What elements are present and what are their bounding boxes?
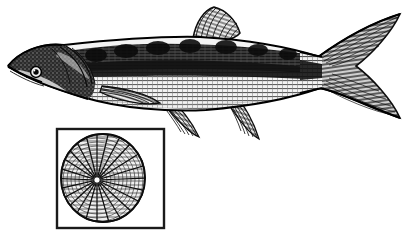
- caudal-peduncle: [300, 52, 322, 93]
- fish-illustration-svg: [0, 0, 406, 236]
- eye: [31, 67, 42, 78]
- illustration-plate: Scale (enlarged) fish No printed text ap…: [0, 0, 406, 236]
- scale-detail-inset: [47, 129, 164, 228]
- scale-focus: [94, 177, 100, 183]
